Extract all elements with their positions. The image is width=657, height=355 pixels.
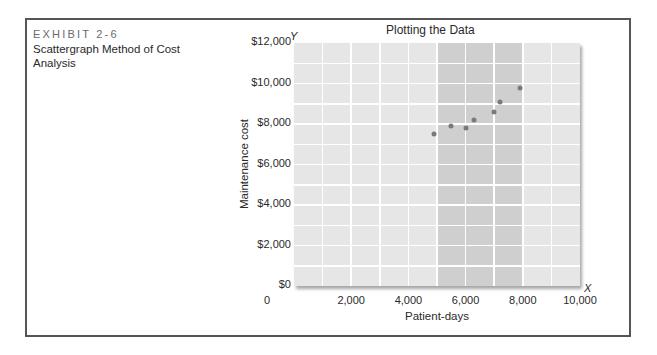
gridline-horizontal <box>294 63 580 65</box>
gridline-horizontal <box>294 245 580 247</box>
gridline-horizontal <box>294 225 580 227</box>
x-tick-label: 8,000 <box>509 294 537 306</box>
exhibit-title: Scattergraph Method of Cost Analysis <box>33 42 213 70</box>
y-tick-label: $12,000 <box>251 35 291 47</box>
x-tick-label: 0 <box>264 294 270 306</box>
y-tick-label: $6,000 <box>257 157 291 169</box>
gridline-horizontal <box>294 123 580 125</box>
data-point <box>463 126 468 131</box>
y-tick-label: $4,000 <box>257 197 291 209</box>
plot-area <box>294 43 580 286</box>
data-point <box>517 85 522 90</box>
gridline-horizontal <box>294 83 580 85</box>
data-point <box>449 124 454 129</box>
gridline-horizontal <box>294 103 580 105</box>
data-point <box>432 132 437 137</box>
gridline-horizontal <box>294 164 580 166</box>
x-axis-letter: X <box>584 282 591 294</box>
gridline-horizontal <box>294 184 580 186</box>
chart-title: Plotting the Data <box>386 23 475 37</box>
x-tick-label: 10,000 <box>563 294 597 306</box>
y-axis-letter: Y <box>290 30 297 42</box>
x-tick-label: 4,000 <box>395 294 423 306</box>
exhibit-label: EXHIBIT 2-6 <box>33 28 119 40</box>
y-axis-label: Maintenance cost <box>238 119 250 209</box>
y-tick-label: $10,000 <box>251 76 291 88</box>
y-tick-label: $8,000 <box>257 116 291 128</box>
y-tick-label: $2,000 <box>257 238 291 250</box>
x-tick-label: 2,000 <box>337 294 365 306</box>
gridline-horizontal <box>294 204 580 206</box>
x-axis-label: Patient-days <box>405 310 469 322</box>
x-tick-label: 6,000 <box>452 294 480 306</box>
gridline-horizontal <box>294 144 580 146</box>
data-point <box>492 109 497 114</box>
gridline-horizontal <box>294 265 580 267</box>
data-point <box>497 99 502 104</box>
y-tick-label: $0 <box>279 278 291 290</box>
data-point <box>472 117 477 122</box>
